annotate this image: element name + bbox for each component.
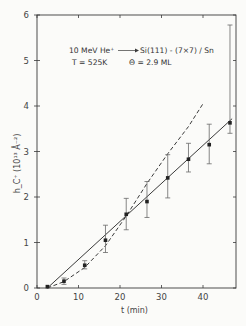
annotation-temperature: T = 525K	[71, 58, 108, 67]
chart: 0123456010203040t (min)h_C⁺ (10¹³ Å⁻²)10…	[0, 0, 246, 326]
data-point	[46, 285, 50, 289]
x-axis-title: t (min)	[121, 306, 148, 315]
dashed-fit-line	[47, 104, 203, 288]
y-tick-label: 1	[24, 238, 29, 248]
x-tick-label: 20	[115, 292, 126, 302]
annotation-coverage: Θ = 2.9 ML	[129, 58, 172, 67]
arrow-head-icon	[135, 49, 139, 53]
data-point	[207, 143, 211, 147]
x-tick-label: 30	[156, 292, 167, 302]
plot-frame	[37, 15, 236, 288]
data-point	[104, 238, 108, 242]
data-point	[187, 157, 191, 161]
y-tick-label: 5	[24, 56, 29, 66]
plot-area: 0123456010203040t (min)h_C⁺ (10¹³ Å⁻²)10…	[11, 10, 236, 315]
annotation-beam: 10 MeV He⁺	[69, 46, 114, 55]
y-tick-label: 4	[24, 101, 29, 111]
x-tick-label: 10	[73, 292, 84, 302]
data-point	[228, 121, 232, 125]
data-point	[166, 176, 170, 180]
data-point	[145, 200, 149, 204]
y-axis-title: h_C⁺ (10¹³ Å⁻²)	[11, 134, 22, 194]
solid-fit-line	[47, 119, 232, 288]
y-tick-label: 0	[24, 283, 29, 293]
data-point	[124, 212, 128, 216]
x-tick-label: 40	[198, 292, 209, 302]
y-tick-label: 3	[24, 147, 29, 157]
x-tick-label: 0	[34, 292, 39, 302]
data-point	[83, 263, 87, 267]
data-point	[62, 279, 66, 283]
annotation-target: Si(111) - (7×7) / Sn	[140, 46, 214, 55]
y-tick-label: 6	[24, 10, 29, 20]
y-tick-label: 2	[24, 192, 29, 202]
